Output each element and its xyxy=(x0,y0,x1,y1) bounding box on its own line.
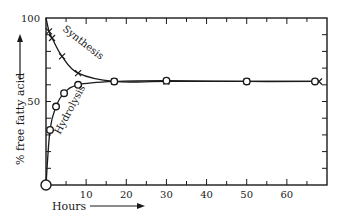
hydrolysis-marker-circle xyxy=(163,77,170,84)
y-tick-label-50: 50 xyxy=(27,96,40,107)
chart-canvas: 102030405060 100 50 Synthesis Hydrolysis… xyxy=(0,0,346,217)
x-axis-title: Hours xyxy=(52,200,87,213)
x-tick-label: 10 xyxy=(80,189,93,200)
x-tick-label: 60 xyxy=(280,189,293,200)
hydrolysis-marker-circle xyxy=(41,180,51,190)
hydrolysis-curve xyxy=(46,81,315,185)
hydrolysis-marker-circle xyxy=(312,78,319,85)
y-axis-title: % free fatty acid xyxy=(14,73,27,165)
hydrolysis-marker-circle xyxy=(111,78,118,85)
y-tick-label-100: 100 xyxy=(21,13,40,24)
x-tick-label: 40 xyxy=(200,189,213,200)
tick-labels: 102030405060 xyxy=(80,189,293,200)
x-axis-arrow-icon xyxy=(90,203,145,209)
hydrolysis-marker-circle xyxy=(53,103,60,110)
synthesis-curve-label: Synthesis xyxy=(61,23,106,62)
synthesis-marker-cross xyxy=(59,53,65,59)
x-tick-label: 20 xyxy=(120,189,133,200)
x-tick-label: 50 xyxy=(240,189,253,200)
hydrolysis-marker-circle xyxy=(243,78,250,85)
synthesis-marker-cross xyxy=(49,35,55,41)
data-markers xyxy=(41,28,322,190)
x-tick-label: 30 xyxy=(160,189,173,200)
hydrolysis-marker-circle xyxy=(61,90,68,97)
synthesis-marker-cross xyxy=(75,70,81,76)
